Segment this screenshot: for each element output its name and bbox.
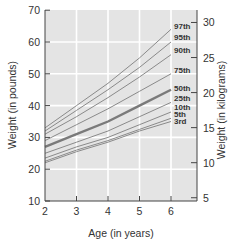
x-tick-label: 4 xyxy=(105,205,111,217)
y-tick-label: 20 xyxy=(28,163,40,175)
percentile-label-25th: 25th xyxy=(174,94,191,103)
x-tick-label: 2 xyxy=(42,205,48,217)
x-tick-label: 3 xyxy=(74,205,80,217)
x-tick-label: 6 xyxy=(168,205,174,217)
y-tick-label: 60 xyxy=(28,36,40,48)
y-tick-label: 70 xyxy=(28,4,40,16)
y-tick-label: 30 xyxy=(28,131,40,143)
y-right-tick-label: 15 xyxy=(203,122,215,134)
y-axis-right-title: Weight (in kilograms) xyxy=(215,61,227,159)
percentile-label-50th: 50th xyxy=(174,84,191,93)
x-tick-label: 5 xyxy=(137,205,143,217)
percentile-labels: 97th95th90th75th50th25th10th5th3rd xyxy=(174,22,191,126)
percentile-label-95th: 95th xyxy=(174,33,191,42)
percentile-label-90th: 90th xyxy=(174,46,191,55)
y-right-tick-label: 25 xyxy=(203,52,215,64)
y-right-tick-label: 20 xyxy=(203,87,215,99)
y-right-tick-label: 30 xyxy=(203,16,215,28)
y-axis-left-title: Weight (in pounds) xyxy=(6,61,18,149)
y-tick-label: 10 xyxy=(28,195,40,207)
percentile-label-75th: 75th xyxy=(174,66,191,75)
percentile-label-3rd: 3rd xyxy=(174,117,187,126)
y-right-tick-label: 5 xyxy=(203,192,209,204)
y-tick-label: 50 xyxy=(28,68,40,80)
y-tick-label: 40 xyxy=(28,100,40,112)
x-axis-title: Age (in years) xyxy=(88,227,153,239)
percentile-label-97th: 97th xyxy=(174,22,191,31)
growth-chart: 10203040506070 51015202530 23456 97th95t… xyxy=(0,0,237,242)
y-right-tick-label: 10 xyxy=(203,157,215,169)
